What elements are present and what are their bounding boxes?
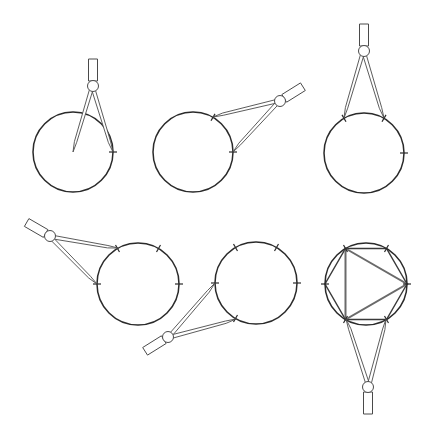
- construction-step-4: [24, 219, 183, 325]
- compass-handle: [364, 392, 373, 414]
- compass-icon: [73, 59, 113, 152]
- construction-step-3: [324, 24, 408, 193]
- compass-hinge: [359, 46, 370, 57]
- construction-step-5: [143, 242, 301, 355]
- circle: [324, 113, 404, 193]
- compass-leg: [344, 50, 365, 118]
- compass-leg: [73, 85, 94, 152]
- compass-leg: [362, 51, 384, 118]
- diagram-canvas: [0, 0, 434, 430]
- circle: [97, 243, 179, 325]
- circle: [153, 112, 233, 192]
- construction-step-6: [321, 243, 411, 414]
- compass-handle: [360, 24, 369, 46]
- compass-icon: [344, 24, 384, 118]
- compass-handle: [89, 59, 98, 81]
- compass-icon: [24, 219, 118, 284]
- compass-hinge: [45, 231, 56, 242]
- circle: [215, 242, 297, 324]
- circle: [325, 243, 407, 325]
- compass-hinge: [163, 332, 174, 343]
- compass-icon: [346, 319, 386, 414]
- compass-leg: [346, 319, 370, 387]
- compass-icon: [143, 283, 236, 355]
- compass-icon: [213, 83, 305, 152]
- compass-construction-diagram: [0, 0, 434, 430]
- inscribed-hexagon: [325, 248, 407, 319]
- compass-hinge: [363, 382, 374, 393]
- construction-step-2: [153, 83, 305, 192]
- compass-hinge: [88, 81, 99, 92]
- construction-step-1: [33, 59, 117, 192]
- compass-hinge: [275, 96, 286, 107]
- compass-leg: [367, 319, 386, 388]
